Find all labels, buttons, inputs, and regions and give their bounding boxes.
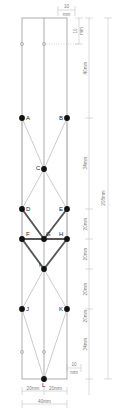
truss-node-label-G: G [46, 231, 51, 237]
dim-seg-20-d: 20mm [83, 309, 88, 322]
truss-node-D[interactable] [19, 206, 25, 212]
dim-top-width-unit: mm [63, 12, 71, 17]
truss-node-A[interactable] [19, 115, 25, 121]
truss-node-J[interactable] [19, 306, 25, 312]
truss-node-label-C: C [36, 165, 41, 171]
truss-member-AC [22, 118, 44, 169]
truss-node-label-L: L [42, 382, 46, 388]
mounting-holes [20, 42, 45, 353]
truss-member-FI [22, 239, 44, 269]
dim-top-height-unit: mm [79, 27, 84, 35]
truss-member-IK [44, 269, 67, 309]
truss-member-HI [44, 239, 67, 269]
truss-elevation-drawing: ABCDEFGHIJKL 10 mm 10 mm 40mm 34mm 20mm … [0, 0, 122, 413]
dim-seg-20-c: 20mm [83, 282, 88, 295]
dim-bottom-offset: 10 [71, 362, 77, 367]
truss-node-F[interactable] [19, 236, 25, 242]
truss-node-K[interactable] [64, 306, 70, 312]
truss-member-IJ [22, 269, 44, 309]
truss-node-label-K: K [59, 306, 63, 312]
truss-node-label-B: B [59, 115, 63, 121]
truss-node-label-E: E [59, 206, 63, 212]
truss-node-label-J: J [26, 306, 29, 312]
truss-member-CD [22, 169, 44, 209]
dim-bottom-right: 20mm [49, 386, 62, 391]
truss-node-label-F: F [26, 231, 30, 237]
truss-nodes [19, 115, 70, 382]
truss-node-I[interactable] [41, 266, 47, 272]
dim-seg-20-a: 20mm [83, 217, 88, 230]
dim-bottom-left: 20mm [27, 386, 40, 391]
dim-seg-34-bottom: 34mm [83, 337, 88, 350]
dimension-labels: 10 mm 10 mm 40mm 34mm 20mm 20mm 20mm 20m… [27, 4, 106, 404]
dim-overall-height: 208mm [101, 190, 106, 205]
plate-outline [22, 18, 67, 379]
technical-drawing-canvas: ABCDEFGHIJKL 10 mm 10 mm 40mm 34mm 20mm … [0, 0, 122, 413]
truss-node-B[interactable] [64, 115, 70, 121]
dim-top-height: 10 [73, 28, 78, 34]
dim-top-width: 10 [64, 4, 70, 9]
dim-seg-34-top: 34mm [83, 156, 88, 169]
truss-member-KL [44, 309, 67, 379]
truss-member-BC [44, 118, 67, 169]
truss-node-label-D: D [26, 206, 31, 212]
dim-seg-20-b: 20mm [83, 247, 88, 260]
truss-node-label-H: H [59, 231, 63, 237]
dim-bottom-offset-unit: mm [70, 370, 78, 375]
dim-bottom-total: 40mm [38, 399, 51, 404]
truss-node-E[interactable] [64, 206, 70, 212]
truss-node-C[interactable] [41, 166, 47, 172]
dim-seg-40: 40mm [83, 61, 88, 74]
truss-node-label-A: A [26, 115, 30, 121]
truss-node-H[interactable] [64, 236, 70, 242]
truss-member-JL [22, 309, 44, 379]
truss-member-CE [44, 169, 67, 209]
